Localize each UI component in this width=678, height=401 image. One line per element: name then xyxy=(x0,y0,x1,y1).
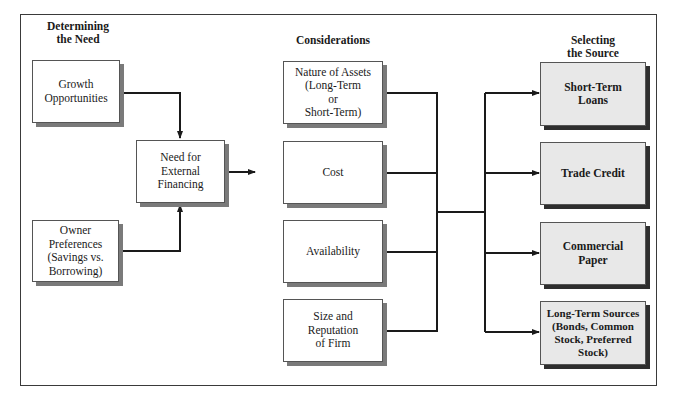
heading-considerations: Considerations xyxy=(283,34,383,47)
consideration-label: Availability xyxy=(306,245,360,259)
source-label: Trade Credit xyxy=(561,167,625,181)
heading-selecting-source: Selecting the Source xyxy=(543,34,643,60)
growth-opportunities-box: Growth Opportunities xyxy=(32,60,120,123)
source-short-term-loans: Short-Term Loans xyxy=(540,62,646,126)
consideration-cost: Cost xyxy=(283,141,383,204)
consideration-label: Size and Reputation of Firm xyxy=(308,310,358,351)
owner-preferences-label: Owner Preferences (Savings vs. Borrowing… xyxy=(47,224,103,278)
source-label: Short-Term Loans xyxy=(564,81,622,108)
consideration-label: Cost xyxy=(322,166,343,180)
growth-opportunities-label: Growth Opportunities xyxy=(44,78,107,105)
source-trade-credit: Trade Credit xyxy=(540,142,646,205)
source-label: Commercial Paper xyxy=(563,240,623,267)
source-long-term-sources: Long-Term Sources (Bonds, Common Stock, … xyxy=(540,301,646,365)
consideration-availability: Availability xyxy=(283,220,383,283)
consideration-size-reputation: Size and Reputation of Firm xyxy=(283,299,383,362)
external-financing-label: Need for External Financing xyxy=(158,151,204,192)
source-label: Long-Term Sources (Bonds, Common Stock, … xyxy=(547,307,640,359)
consideration-nature-of-assets: Nature of Assets (Long-Term or Short-Ter… xyxy=(283,61,383,124)
consideration-label: Nature of Assets (Long-Term or Short-Ter… xyxy=(295,66,371,120)
source-commercial-paper: Commercial Paper xyxy=(540,222,646,285)
owner-preferences-box: Owner Preferences (Savings vs. Borrowing… xyxy=(32,220,119,282)
heading-determining-need: Determining the Need xyxy=(28,20,128,46)
external-financing-box: Need for External Financing xyxy=(136,140,225,203)
